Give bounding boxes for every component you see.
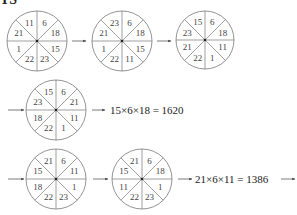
sector-value: 22: [193, 53, 202, 63]
sector-value: 23: [183, 28, 193, 38]
sector-value: 21: [183, 42, 192, 52]
sector-value: 22: [44, 123, 53, 133]
sector-value: 11: [125, 54, 134, 64]
sector-value: 23: [40, 54, 50, 64]
wheel: 62111122182315: [26, 80, 86, 140]
sector-value: 1: [158, 182, 163, 192]
sector-value: 11: [70, 166, 79, 176]
sector-value: 21: [70, 97, 79, 107]
sector-value: 22: [25, 54, 34, 64]
wheel-diagram: TS 6181523221211161815112212123618111222…: [0, 0, 297, 215]
sector-value: 18: [218, 28, 228, 38]
sector-value: 6: [210, 17, 215, 27]
sector-value: 1: [16, 44, 21, 54]
sector-value: 23: [110, 18, 120, 28]
sector-value: 1: [210, 53, 215, 63]
wheel-center-dot: [121, 40, 124, 43]
sector-value: 15: [44, 87, 54, 97]
sector-value: 11: [119, 182, 128, 192]
sector-value: 18: [33, 113, 43, 123]
wheel: 61812322111521: [112, 149, 172, 209]
sector-value: 22: [130, 192, 139, 202]
wheel-center-dot: [55, 178, 58, 181]
sector-value: 11: [25, 18, 34, 28]
wheel-center-dot: [36, 40, 39, 43]
sector-value: 18: [156, 166, 166, 176]
sector-value: 22: [110, 54, 119, 64]
sector-value: 21: [44, 156, 53, 166]
wheel-center-dot: [55, 109, 58, 112]
wheel: 61815232212111: [7, 11, 67, 71]
sector-value: 11: [70, 113, 79, 123]
sector-value: 18: [33, 182, 43, 192]
sector-value: 15: [136, 44, 146, 54]
equation-text: 21×6×11 = 1386: [195, 173, 269, 185]
sector-value: 21: [14, 28, 23, 38]
sector-value: 23: [33, 97, 43, 107]
sector-value: 6: [127, 18, 132, 28]
sector-value: 6: [61, 156, 66, 166]
header-partial-text: TS: [0, 0, 17, 7]
wheel-center-dot: [204, 39, 207, 42]
wheel: 61811122212315: [176, 11, 234, 69]
equation-text: 15×6×18 = 1620: [110, 104, 184, 116]
wheel: 61815112212123: [92, 11, 152, 71]
sector-value: 1: [101, 44, 106, 54]
sector-value: 1: [72, 182, 77, 192]
wheel: 61112322181521: [26, 149, 86, 209]
sector-value: 15: [51, 44, 61, 54]
sector-value: 22: [44, 192, 53, 202]
sector-value: 23: [59, 192, 69, 202]
sector-value: 15: [33, 166, 43, 176]
sector-value: 18: [51, 28, 61, 38]
sector-value: 21: [99, 28, 108, 38]
wheel-center-dot: [141, 178, 144, 181]
sector-value: 15: [193, 17, 203, 27]
sector-value: 18: [136, 28, 146, 38]
sector-value: 21: [130, 156, 139, 166]
sector-value: 6: [147, 156, 152, 166]
sector-value: 11: [218, 42, 227, 52]
sector-value: 15: [119, 166, 129, 176]
sector-value: 6: [61, 87, 66, 97]
sector-value: 1: [61, 123, 66, 133]
sector-value: 23: [145, 192, 155, 202]
sector-value: 6: [42, 18, 47, 28]
